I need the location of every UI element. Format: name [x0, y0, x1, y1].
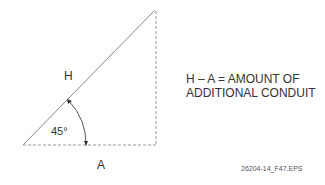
figure-id: 26204-14_F47.EPS: [241, 165, 303, 172]
formula-note-line-1: H – A = AMOUNT OF: [186, 72, 316, 86]
adjacent-label: A: [97, 159, 105, 171]
formula-note: H – A = AMOUNT OF ADDITIONAL CONDUIT: [186, 72, 316, 100]
angle-arc: [69, 101, 86, 145]
formula-note-line-2: ADDITIONAL CONDUIT: [186, 86, 316, 100]
hypotenuse-label: H: [64, 70, 73, 82]
angle-label: 45°: [51, 126, 68, 137]
hypotenuse-line: [23, 10, 155, 145]
